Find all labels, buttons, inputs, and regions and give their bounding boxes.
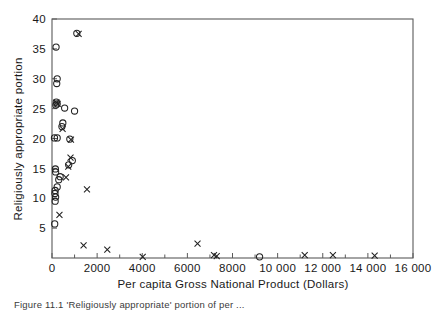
y-tick-label: 35: [33, 43, 46, 55]
data-point-circle: [52, 198, 58, 204]
x-tick-label: 16 000: [395, 262, 432, 274]
data-point-circle: [62, 105, 68, 111]
y-tick-label: 30: [33, 73, 46, 85]
data-point-cross: [56, 212, 62, 218]
x-tick-label: 12 000: [304, 262, 341, 274]
y-tick-label: 20: [33, 133, 46, 145]
axes-layer: [52, 19, 413, 258]
data-point-cross: [330, 252, 336, 258]
y-tick-label: 10: [33, 192, 46, 204]
data-point-cross: [63, 174, 69, 180]
y-tick-label: 40: [33, 13, 46, 25]
data-point-circle: [256, 254, 262, 260]
data-point-cross: [81, 242, 87, 248]
data-point-circle: [71, 108, 77, 114]
x-tick-label: 2000: [84, 262, 111, 274]
data-point-cross: [195, 241, 201, 247]
scatter-plot: 0200040006000800010 00012 00014 00016 00…: [0, 0, 440, 314]
figure-caption: Figure 11.1 'Religiously appropriate' po…: [14, 299, 434, 314]
y-tick-label: 25: [33, 103, 46, 115]
x-tick-marks: [52, 253, 413, 258]
plot-frame: [52, 19, 413, 258]
y-tick-labels: 510152025303540: [33, 13, 46, 234]
y-tick-label: 15: [33, 163, 46, 175]
x-axis-title: Per capita Gross National Product (Dolla…: [117, 278, 348, 290]
data-point-cross: [104, 247, 110, 253]
x-tick-labels: 0200040006000800010 00012 00014 00016 00…: [49, 262, 432, 274]
y-axis-title: Religiously appropriate portion: [12, 57, 24, 220]
x-tick-label: 10 000: [259, 262, 296, 274]
data-markers: [51, 30, 377, 260]
data-point-cross: [84, 186, 90, 192]
x-tick-label: 0: [49, 262, 56, 274]
series-cross-markers: [54, 31, 378, 260]
x-tick-label: 14 000: [349, 262, 386, 274]
y-tick-label: 5: [39, 222, 46, 234]
x-tick-label: 6000: [174, 262, 201, 274]
figure-container: 0200040006000800010 00012 00014 00016 00…: [0, 0, 440, 314]
x-tick-label: 8000: [219, 262, 246, 274]
data-point-cross: [302, 252, 308, 258]
series-circle-markers: [51, 30, 262, 260]
x-tick-label: 4000: [129, 262, 156, 274]
